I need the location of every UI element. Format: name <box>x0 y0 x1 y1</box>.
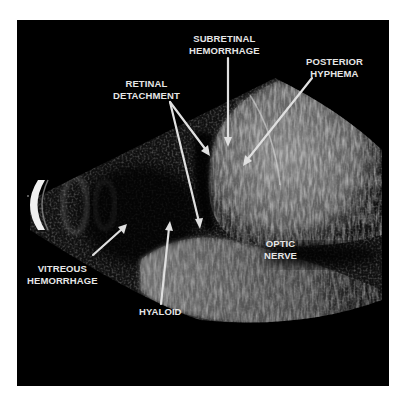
label-hyaloid: HYALOID <box>139 306 182 318</box>
label-subretinal-line1: SUBRETINAL <box>189 33 260 45</box>
label-retinal-line2: DETACHMENT <box>113 90 180 102</box>
label-retinal-line1: RETINAL <box>113 78 180 90</box>
label-vitreous-hemorrhage: VITREOUS HEMORRHAGE <box>27 263 98 287</box>
label-optic-line1: OPTIC <box>264 238 297 250</box>
ultrasound-image-frame: SUBRETINAL HEMORRHAGE POSTERIOR HYPHEMA … <box>17 20 389 386</box>
label-posterior-line1: POSTERIOR <box>306 56 363 68</box>
label-retinal-detachment: RETINAL DETACHMENT <box>113 78 180 102</box>
label-vitreous-line1: VITREOUS <box>27 263 98 275</box>
label-optic-nerve: OPTIC NERVE <box>264 238 297 262</box>
label-hyaloid-line1: HYALOID <box>139 306 182 318</box>
label-subretinal-hemorrhage: SUBRETINAL HEMORRHAGE <box>189 33 260 57</box>
label-posterior-hyphema: POSTERIOR HYPHEMA <box>306 56 363 80</box>
label-subretinal-line2: HEMORRHAGE <box>189 45 260 57</box>
label-optic-line2: NERVE <box>264 250 297 262</box>
label-vitreous-line2: HEMORRHAGE <box>27 275 98 287</box>
label-posterior-line2: HYPHEMA <box>306 68 363 80</box>
